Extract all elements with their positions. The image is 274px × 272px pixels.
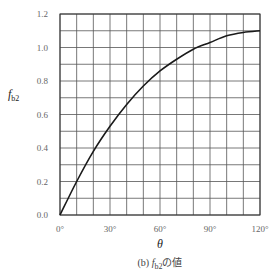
x-tick-label: 120° <box>251 224 269 234</box>
y-tick-label: 1.2 <box>37 9 48 19</box>
y-axis-label: fb2 <box>8 87 19 103</box>
y-tick-label: 0.8 <box>37 76 49 86</box>
y-tick-label: 1.0 <box>37 43 49 53</box>
y-tick-label: 0.4 <box>37 143 49 153</box>
chart-grid <box>60 14 260 215</box>
x-tick-label: 60° <box>154 224 167 234</box>
chart: 0.00.20.40.60.81.01.2 0°30°60°90°120° fb… <box>0 0 274 272</box>
figure-caption: (b) fb2の値 <box>138 256 183 271</box>
y-tick-label: 0.0 <box>37 210 49 220</box>
x-tick-label: 0° <box>56 224 65 234</box>
y-axis-ticks: 0.00.20.40.60.81.01.2 <box>37 9 49 220</box>
y-tick-label: 0.2 <box>37 177 48 187</box>
x-axis-label: θ <box>157 237 163 251</box>
y-tick-label: 0.6 <box>37 110 49 120</box>
x-tick-label: 30° <box>104 224 117 234</box>
x-tick-label: 90° <box>204 224 217 234</box>
x-axis-ticks: 0°30°60°90°120° <box>56 224 269 234</box>
